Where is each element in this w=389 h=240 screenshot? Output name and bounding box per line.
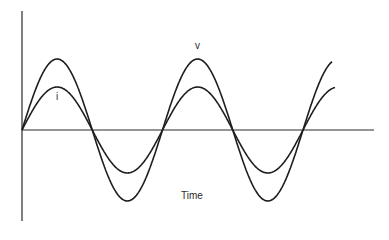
current-label: i	[56, 91, 58, 102]
x-axis-label: Time	[181, 190, 203, 201]
voltage-label: v	[195, 40, 200, 51]
